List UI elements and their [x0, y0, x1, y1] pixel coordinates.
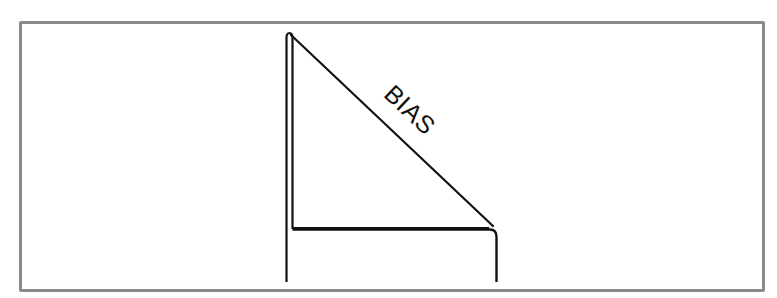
- base-edge-line: [293, 230, 497, 283]
- bias-label: BIAS: [379, 79, 441, 140]
- bias-triangle-diagram: BIAS: [0, 0, 777, 298]
- left-edge-line: [287, 33, 293, 282]
- bias-edge-line: [291, 35, 493, 226]
